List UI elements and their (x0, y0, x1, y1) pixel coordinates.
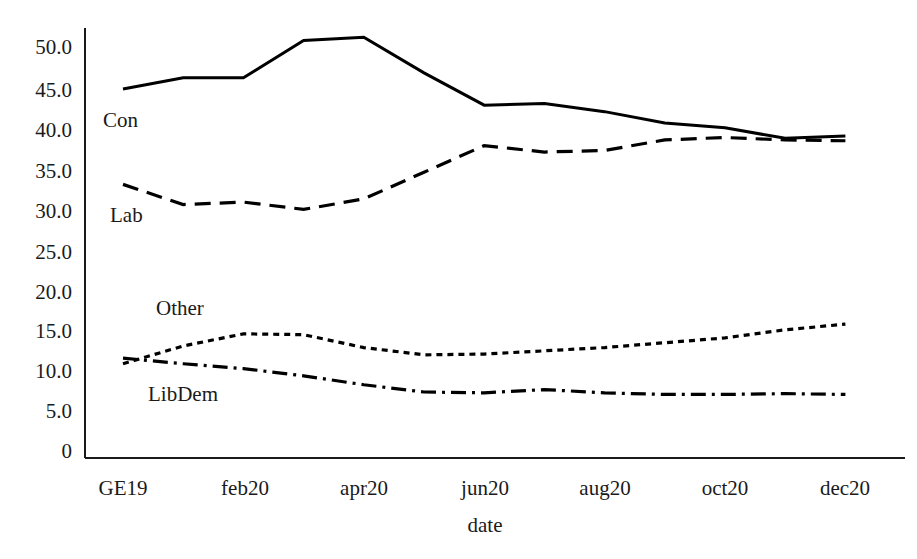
series-label-lab: Lab (110, 205, 143, 226)
y-tick-label: 0 (0, 441, 72, 462)
y-tick-label: 10.0 (0, 361, 72, 382)
series-label-other: Other (156, 298, 204, 319)
x-tick-label: feb20 (185, 478, 305, 499)
y-tick-label: 30.0 (0, 201, 72, 222)
y-tick-label: 20.0 (0, 282, 72, 303)
y-tick-label: 35.0 (0, 161, 72, 182)
y-tick-label: 45.0 (0, 80, 72, 101)
x-tick-label: oct20 (665, 478, 785, 499)
y-tick-label: 15.0 (0, 321, 72, 342)
series-line-lab (123, 137, 845, 209)
x-tick-label: GE19 (63, 478, 183, 499)
series-label-con: Con (103, 110, 138, 131)
series-line-other (123, 324, 845, 364)
series-label-libdem: LibDem (148, 384, 218, 405)
y-tick-label: 50.0 (0, 37, 72, 58)
x-axis-title: date (385, 515, 585, 536)
series-line-libdem (123, 358, 845, 394)
line-chart: 50.045.040.035.030.025.020.015.010.05.00… (0, 0, 917, 559)
x-tick-label: apr20 (304, 478, 424, 499)
series-line-con (123, 37, 845, 138)
x-tick-label: aug20 (545, 478, 665, 499)
y-tick-label: 5.0 (0, 401, 72, 422)
y-tick-label: 25.0 (0, 242, 72, 263)
series-group (123, 37, 845, 394)
x-tick-label: jun20 (425, 478, 545, 499)
y-tick-label: 40.0 (0, 120, 72, 141)
x-tick-label: dec20 (785, 478, 905, 499)
